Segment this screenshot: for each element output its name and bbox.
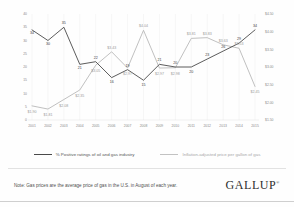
x-axis-tick-label: 2015 xyxy=(251,124,259,128)
data-label-gas-price: $2.97 xyxy=(155,72,164,76)
data-label-positive-ratings: 30 xyxy=(46,42,50,46)
x-axis-tick-label: 2004 xyxy=(76,124,84,128)
registered-mark: ® xyxy=(276,180,280,185)
x-axis-tick-label: 2009 xyxy=(156,124,164,128)
y-axis-right-tick-label: $2.50 xyxy=(265,83,274,87)
data-label-positive-ratings: 21 xyxy=(157,58,161,62)
x-axis-tick-label: 2003 xyxy=(60,124,68,128)
data-label-positive-ratings: 34 xyxy=(253,24,257,28)
y-axis-left-tick-label: 35 xyxy=(23,25,27,29)
data-label-positive-ratings: 20 xyxy=(173,61,177,65)
data-label-positive-ratings: 34 xyxy=(30,31,34,35)
data-label-gas-price: $1.81 xyxy=(43,113,52,117)
data-label-gas-price: $3.43 xyxy=(107,46,116,50)
x-axis-tick-label: 2007 xyxy=(124,124,132,128)
y-axis-right-tick-label: $1.50 xyxy=(265,118,274,122)
data-label-gas-price: $2.35 xyxy=(75,94,84,98)
x-axis-tick-label: 2010 xyxy=(172,124,180,128)
chart-card: 4035302520151050$4.50$4.00$3.50$3.00$2.5… xyxy=(0,0,294,207)
legend-line-icon-positive-ratings xyxy=(34,154,52,155)
data-label-positive-ratings: 26 xyxy=(221,45,225,49)
data-label-positive-ratings: 29 xyxy=(237,37,241,41)
x-axis-tick-label: 2014 xyxy=(235,124,243,128)
y-axis-right-tick-label: $4.50 xyxy=(265,12,274,16)
y-axis-left-tick-label: 40 xyxy=(23,12,27,16)
data-label-positive-ratings: 23 xyxy=(205,53,209,57)
x-axis-tick-label: 2008 xyxy=(140,124,148,128)
legend-item-gas-price: Inflation-adjusted price per gallon of g… xyxy=(160,152,260,157)
data-label-gas-price: $3.83 xyxy=(203,32,212,36)
x-axis-tick-label: 2013 xyxy=(219,124,227,128)
y-axis-left-tick-label: 5 xyxy=(25,105,27,109)
x-axis-tick-label: 2006 xyxy=(108,124,116,128)
legend-item-positive-ratings: % Positive ratings of oil and gas indust… xyxy=(34,152,135,157)
y-axis-right-tick-label: $3.00 xyxy=(265,65,274,69)
data-label-gas-price: $2.98 xyxy=(171,72,180,76)
dual-axis-line-chart: 4035302520151050$4.50$4.00$3.50$3.00$2.5… xyxy=(6,6,288,143)
data-label-positive-ratings: 15 xyxy=(142,83,146,87)
data-label-gas-price: $2.08 xyxy=(59,104,68,108)
data-label-positive-ratings: 20 xyxy=(189,70,193,74)
y-axis-left-tick-label: 20 xyxy=(23,65,27,69)
y-axis-right-tick-label: $4.00 xyxy=(265,30,274,34)
bottom-rule xyxy=(0,201,294,202)
data-label-positive-ratings: 19 xyxy=(126,64,130,68)
data-label-gas-price: $3.81 xyxy=(187,32,196,36)
x-axis-tick-label: 2011 xyxy=(188,124,195,128)
data-label-positive-ratings: 22 xyxy=(94,56,98,60)
chart-plot-area: 4035302520151050$4.50$4.00$3.50$3.00$2.5… xyxy=(6,6,288,143)
y-axis-left-tick-label: 30 xyxy=(23,39,27,43)
legend-label-gas-price: Inflation-adjusted price per gallon of g… xyxy=(182,152,260,157)
data-label-gas-price: $2.45 xyxy=(251,90,260,94)
data-label-gas-price: $2.97 xyxy=(123,72,132,76)
footer-divider xyxy=(8,168,286,169)
x-axis-tick-label: 2001 xyxy=(28,124,36,128)
data-label-gas-price: $4.04 xyxy=(139,24,148,28)
y-axis-right-tick-label: $3.50 xyxy=(265,48,274,52)
data-label-positive-ratings: 35 xyxy=(62,21,66,25)
data-label-gas-price: $1.90 xyxy=(28,110,37,114)
y-axis-left-tick-label: 25 xyxy=(23,52,27,56)
y-axis-left-tick-label: 10 xyxy=(23,92,27,96)
y-axis-right-tick-label: $2.00 xyxy=(265,101,274,105)
y-axis-left-tick-label: 15 xyxy=(23,78,27,82)
y-axis-left-tick-label: 0 xyxy=(25,118,27,122)
data-label-gas-price: $3.53 xyxy=(235,42,244,46)
chart-note: Note: Gas prices are the average price o… xyxy=(14,183,177,188)
gallup-wordmark: GALLUP xyxy=(225,178,276,192)
data-label-gas-price: $3.05 xyxy=(91,69,100,73)
x-axis-tick-label: 2005 xyxy=(92,124,100,128)
data-label-gas-price: $3.63 xyxy=(219,39,228,43)
chart-footer: Note: Gas prices are the average price o… xyxy=(0,172,294,198)
chart-legend: % Positive ratings of oil and gas indust… xyxy=(0,146,294,162)
gallup-logo: GALLUP® xyxy=(225,178,280,193)
x-axis-tick-label: 2012 xyxy=(203,124,211,128)
data-label-positive-ratings: 16 xyxy=(110,80,114,84)
x-axis-tick-label: 2002 xyxy=(44,124,52,128)
data-label-positive-ratings: 21 xyxy=(78,66,82,70)
legend-label-positive-ratings: % Positive ratings of oil and gas indust… xyxy=(56,152,135,157)
legend-line-icon-gas-price xyxy=(160,154,178,155)
